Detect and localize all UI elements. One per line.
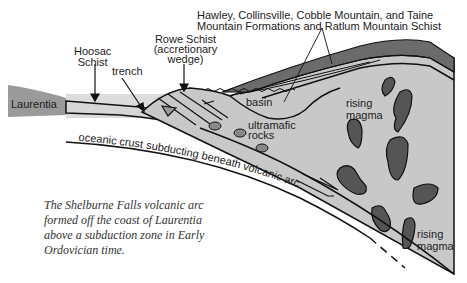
- caption-line1: The Shelburne Falls volcanic arc: [44, 198, 224, 213]
- ultramafic-label-line2: rocks: [248, 130, 296, 140]
- figure-caption: The Shelburne Falls volcanic arc formed …: [44, 198, 224, 258]
- rising-magma-upper-line2: magma: [346, 109, 383, 121]
- formations-label: Hawley, Collinsville, Cobble Mountain, a…: [197, 10, 441, 32]
- hoosac-schist-label: Hoosac Schist: [74, 46, 111, 68]
- caption-line3: above a subduction zone in Early: [44, 228, 224, 243]
- ultramafic-rocks-label: ultramafic rocks: [248, 120, 296, 140]
- rising-magma-lower-line2: magma: [417, 240, 454, 252]
- caption-line2: formed off the coast of Laurentia: [44, 213, 224, 228]
- rowe-label-line3: wedge): [148, 54, 223, 64]
- rising-magma-lower-line1: rising: [417, 228, 454, 240]
- rowe-schist-label: Rowe Schist (accretionary wedge): [148, 34, 223, 64]
- rising-magma-upper-line1: rising: [346, 97, 383, 109]
- trench-label: trench: [112, 66, 143, 77]
- rising-magma-upper-label: rising magma: [346, 97, 383, 121]
- basin-label: basin: [246, 97, 272, 108]
- caption-line4: Ordovician time.: [44, 243, 224, 258]
- laurentia-label: Laurentia: [11, 99, 57, 110]
- hoosac-label-line2: Schist: [74, 57, 111, 68]
- formations-label-line2: Mountain Formations and Ratlum Mountain …: [197, 21, 441, 32]
- rising-magma-lower-label: rising magma: [417, 228, 454, 252]
